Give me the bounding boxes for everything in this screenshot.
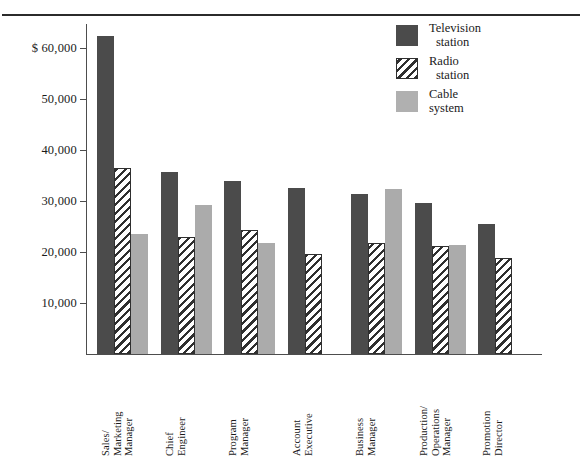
bar-cable (449, 245, 466, 354)
y-tick-mark (80, 252, 86, 253)
bar-radio (241, 230, 258, 354)
y-tick-mark (80, 48, 86, 49)
bar-cable (385, 189, 402, 354)
bar-radio (368, 243, 385, 354)
bar-tv (351, 194, 368, 354)
x-axis-label-line: Marketing (112, 411, 124, 456)
x-axis-label-line: Manager (441, 406, 453, 456)
y-tick-mark (80, 150, 86, 151)
x-axis-label-line: Operations (429, 406, 441, 456)
x-axis-label-line: Chief (164, 417, 176, 456)
x-axis-label-line: Account (291, 413, 303, 456)
bar-tv (224, 181, 241, 354)
y-tick-label: 50,000 (41, 92, 77, 107)
bar-radio (495, 258, 512, 354)
bar-tv (288, 188, 305, 354)
x-axis-label-line: Engineer (175, 417, 187, 456)
bar-radio (432, 246, 449, 354)
x-axis-label-line: Manager (366, 418, 378, 456)
x-axis-label-line: Production/ (418, 406, 430, 456)
bar-cable (258, 243, 275, 354)
x-axis-label-line: Manager (123, 411, 135, 456)
y-tick-label: 30,000 (41, 194, 77, 209)
bar-radio (305, 254, 322, 354)
x-axis-label-line: Promotion (481, 411, 493, 456)
plot-area: $ 60,00050,00040,00030,00020,00010,000 S… (86, 24, 542, 355)
x-axis-label-line: Executive (302, 413, 314, 456)
bar-tv (478, 224, 495, 354)
header-rule (2, 14, 580, 16)
bar-cable (131, 234, 148, 354)
y-tick-label: 20,000 (41, 245, 77, 260)
x-axis-label-line: Manager (239, 418, 251, 456)
y-tick-label: 40,000 (41, 143, 77, 158)
x-axis-label-line: Business (354, 418, 366, 456)
y-tick-label: 10,000 (41, 296, 77, 311)
y-tick-mark (80, 99, 86, 100)
bar-radio (114, 168, 131, 354)
y-tick-label: $ 60,000 (32, 41, 77, 56)
bar-tv (97, 36, 114, 354)
bar-cable (195, 205, 212, 354)
y-tick-mark (80, 201, 86, 202)
y-axis-line (86, 24, 87, 355)
x-axis-label-line: Program (227, 418, 239, 456)
y-tick-mark (80, 303, 86, 304)
bar-tv (161, 172, 178, 354)
x-axis-line (86, 354, 542, 355)
bar-radio (178, 237, 195, 354)
cut-off-title (0, 0, 582, 8)
x-axis-label-line: Director (493, 411, 505, 456)
x-axis-label-line: Sales/ (100, 411, 112, 456)
bar-tv (415, 203, 432, 354)
